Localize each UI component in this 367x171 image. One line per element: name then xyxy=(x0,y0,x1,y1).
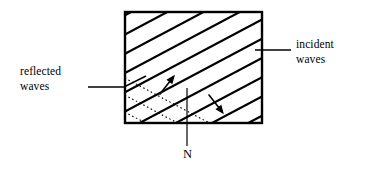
reflected-waves-label-line2: waves xyxy=(20,80,50,92)
normal-label: N xyxy=(183,147,192,161)
incident-waves-label-line1: incident xyxy=(296,38,335,50)
diagram-canvas: incident waves reflected waves N xyxy=(0,0,367,171)
canvas-background xyxy=(0,0,367,171)
incident-waves-label-line2: waves xyxy=(296,53,326,65)
wave-reflection-diagram: incident waves reflected waves N xyxy=(0,0,367,171)
reflected-waves-label-line1: reflected xyxy=(20,65,61,77)
